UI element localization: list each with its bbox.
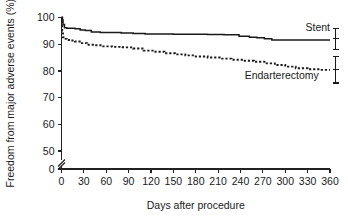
x-tick-label: 90 <box>123 175 135 187</box>
x-tick-label: 0 <box>59 175 65 187</box>
x-tick-label: 210 <box>209 175 227 187</box>
x-axis-title: Days after procedure <box>147 199 245 211</box>
y-tick-label: 100 <box>37 11 55 23</box>
x-tick-label: 360 <box>321 175 339 187</box>
y-tick-label: 0 <box>49 163 55 175</box>
x-tick-label: 150 <box>165 175 183 187</box>
x-tick-label: 30 <box>78 175 90 187</box>
series-annotation: Endarterectomy <box>245 69 320 81</box>
y-tick-label: 60 <box>43 118 55 130</box>
x-tick-label: 330 <box>299 175 317 187</box>
survival-curve-figure: 0506070809010003060901201501802102402703… <box>0 0 348 220</box>
chart-canvas: 0506070809010003060901201501802102402703… <box>0 0 348 220</box>
y-tick-label: 90 <box>43 38 55 50</box>
series-curve-stent <box>62 18 331 40</box>
x-tick-label: 270 <box>254 175 272 187</box>
y-tick-label: 80 <box>43 65 55 77</box>
y-axis-title: Freedom from major adverse events (%) <box>4 0 16 187</box>
x-tick-label: 120 <box>142 175 160 187</box>
x-tick-label: 240 <box>232 175 250 187</box>
series-annotation: Stent <box>305 21 330 33</box>
x-tick-label: 180 <box>187 175 205 187</box>
x-tick-label: 60 <box>100 175 112 187</box>
y-tick-label: 50 <box>43 145 55 157</box>
x-tick-label: 300 <box>276 175 294 187</box>
y-tick-label: 70 <box>43 91 55 103</box>
series-curve-endarterectomy <box>62 18 331 70</box>
